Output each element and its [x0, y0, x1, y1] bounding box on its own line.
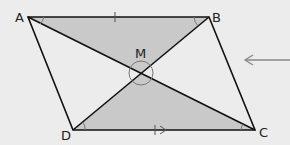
vertex-label-c: C — [259, 125, 268, 140]
vertex-label-d: D — [61, 128, 71, 143]
parallelogram-diagram: A B C D M — [0, 0, 290, 145]
intersection-label-m: M — [135, 46, 146, 61]
diagram-canvas: A B C D M — [0, 0, 290, 145]
vertex-label-a: A — [15, 10, 24, 25]
vertex-label-b: B — [212, 10, 221, 25]
shaded-triangle-dmc — [73, 73, 255, 130]
shaded-triangle-amb — [28, 17, 209, 73]
